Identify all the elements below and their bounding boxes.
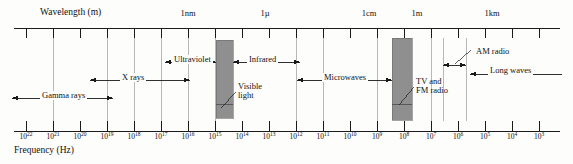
frequency-tick-label-1e11: 1011 xyxy=(317,133,330,141)
band-label-infrared: Infrared xyxy=(247,55,278,64)
band-label-long-waves: Long waves xyxy=(488,66,533,75)
frequency-tick-label-1e16: 1016 xyxy=(182,133,195,141)
bottom-axis-layer xyxy=(14,121,560,131)
frequency-tick-label-1e7: 107 xyxy=(426,133,436,141)
frequency-tick-label-1e3: 103 xyxy=(534,133,544,141)
top-axis-layer xyxy=(14,28,560,38)
wavelength-axis-title: Wavelength (m) xyxy=(40,8,101,18)
frequency-tick-label-1e12: 1012 xyxy=(290,133,303,141)
wavelength-scale-label-1cm: 1cm xyxy=(362,9,377,18)
highlight-bands-layer xyxy=(216,38,412,120)
frequency-tick-label-1e14: 1014 xyxy=(236,133,249,141)
visible-light-band xyxy=(216,40,233,118)
frequency-tick-label-1e19: 1019 xyxy=(101,133,114,141)
band-label-ultraviolet: Ultraviolet xyxy=(172,55,213,64)
frequency-tick-label-1e18: 1018 xyxy=(128,133,141,141)
band-label-am-radio: AM radio xyxy=(474,47,511,56)
frequency-tick-label-1e21: 1021 xyxy=(47,133,60,141)
band-arrows-layer xyxy=(12,62,562,98)
frequency-tick-label-1e5: 105 xyxy=(480,133,490,141)
callout-label-visible-light: Visiblelight xyxy=(238,82,262,100)
band-label-gamma-rays: Gamma rays xyxy=(40,91,87,100)
band-label-x-rays: X rays xyxy=(120,73,146,82)
frequency-tick-label-1e17: 1017 xyxy=(155,133,168,141)
frequency-tick-label-1e9: 109 xyxy=(372,133,382,141)
wavelength-scale-label-1nm: 1nm xyxy=(180,9,195,18)
frequency-tick-label-1e10: 1010 xyxy=(344,133,357,141)
frequency-tick-label-1e8: 108 xyxy=(399,133,409,141)
frequency-tick-label-1e6: 106 xyxy=(453,133,463,141)
frequency-tick-label-1e15: 1015 xyxy=(209,133,222,141)
frequency-tick-label-1e20: 1020 xyxy=(74,133,87,141)
tv-and-fm-radio-band xyxy=(392,38,412,120)
am-radio-leader xyxy=(455,50,471,64)
em-spectrum-figure: Wavelength (m) Frequency (Hz) 1nm1µ1cm1m… xyxy=(0,0,573,164)
frequency-axis-title: Frequency (Hz) xyxy=(14,146,74,156)
frequency-tick-label-1e13: 1013 xyxy=(263,133,276,141)
band-label-microwaves: Microwaves xyxy=(322,73,368,82)
frequency-tick-label-1e22: 1022 xyxy=(20,133,33,141)
callout-label-tv-and-fm-radio: TV andFM radio xyxy=(416,77,448,95)
wavelength-scale-label-1m: 1m xyxy=(412,9,423,18)
wavelength-scale-label-1: 1µ xyxy=(260,9,269,18)
wavelength-scale-label-1km: 1km xyxy=(484,9,499,18)
frequency-tick-label-1e4: 104 xyxy=(507,133,517,141)
